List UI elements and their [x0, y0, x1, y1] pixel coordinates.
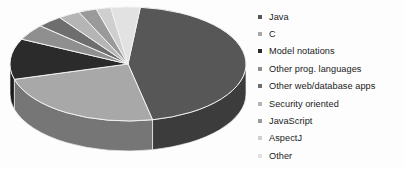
legend-item-label: Security oriented: [269, 99, 339, 109]
legend-swatch-icon: [258, 136, 262, 140]
legend-swatch-icon: [258, 67, 262, 71]
pie-chart-figure: Java C Model notations Other prog. langu…: [0, 0, 404, 169]
legend-item[interactable]: JavaScript: [256, 112, 404, 129]
legend-item-label: JavaScript: [269, 116, 312, 126]
legend-swatch-icon: [258, 84, 262, 88]
legend-item[interactable]: Other prog. languages: [256, 60, 404, 77]
legend-swatch-icon: [258, 32, 262, 36]
legend-item-label: C: [269, 29, 276, 39]
legend-item-label: Other web/database apps: [269, 81, 375, 91]
legend-item[interactable]: Other: [256, 147, 404, 164]
legend-item[interactable]: Model notations: [256, 43, 404, 60]
legend-item-label: Other prog. languages: [269, 64, 361, 74]
legend-swatch-icon: [258, 15, 262, 19]
legend-item-label: Model notations: [269, 46, 335, 56]
legend-item-label: Java: [269, 12, 289, 22]
legend-swatch-icon: [258, 154, 262, 158]
legend-swatch-icon: [258, 119, 262, 123]
legend-item[interactable]: Java: [256, 8, 404, 25]
legend-item-label: Other: [269, 151, 292, 161]
legend-item[interactable]: C: [256, 25, 404, 42]
legend-swatch-icon: [258, 49, 262, 53]
legend-item[interactable]: Security oriented: [256, 95, 404, 112]
chart-legend: Java C Model notations Other prog. langu…: [256, 8, 404, 164]
legend-item-label: AspectJ: [269, 133, 302, 143]
pie-plot-area: [0, 0, 258, 169]
legend-item[interactable]: Other web/database apps: [256, 78, 404, 95]
legend-item[interactable]: AspectJ: [256, 130, 404, 147]
legend-swatch-icon: [258, 102, 262, 106]
pie-chart-svg: [0, 0, 258, 169]
